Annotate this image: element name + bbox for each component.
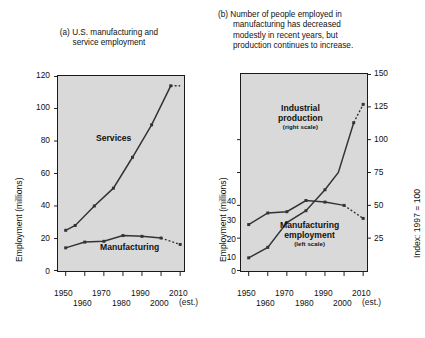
panel-b-y-axis-label-right: Index: 1997 = 100: [412, 189, 422, 258]
panel-a-series-services-markers: [64, 84, 172, 231]
panel-b-label-manufacturing-employment: Manufacturing employment (left scale): [280, 221, 339, 250]
panel-a-ytick-60: 60: [20, 168, 50, 178]
panel-b-xtick-1990: 1990: [314, 288, 333, 298]
panel-a-ytick-80: 80: [20, 135, 50, 145]
panel-a-title-line-2: service employment: [73, 38, 146, 47]
panel-b-ytick-right-25: 25: [374, 233, 383, 243]
panel-a-xtick-1970: 1970: [92, 288, 111, 298]
panel-b-label-industrial-production: Industrial production (right scale): [278, 104, 323, 133]
panel-b-ytick-right-100: 100: [374, 134, 388, 144]
panel-b-label-indprod-line1: Industrial: [281, 103, 320, 113]
panel-b-series-manuemp-dashed: [344, 205, 363, 218]
panel-b-ytick-left-30: 30: [212, 215, 236, 225]
panel-a-est-note: (est.): [179, 297, 198, 307]
panel-a-x-ticks: [66, 271, 180, 276]
panel-a-ytick-40: 40: [20, 200, 50, 210]
panel-b-ytick-right-150: 150: [374, 68, 388, 78]
panel-a-xtick-1950: 1950: [54, 288, 73, 298]
panel-a-ytick-120: 120: [20, 70, 50, 80]
panel-b-xtick-2000: 2000: [333, 298, 352, 308]
panel-a-title: (a) U.S. manufacturing and service emplo…: [24, 28, 194, 49]
panel-a-title-line-1: (a) U.S. manufacturing and: [60, 28, 158, 37]
panel-b-title-line-3: modestly in recent years, but: [218, 31, 418, 41]
panel-b-series-indprod-dashed: [354, 104, 363, 122]
panel-b-title-line-4: production continues to increase.: [218, 41, 418, 51]
panel-b-label-indprod-line2: production: [278, 113, 323, 123]
panel-a-xtick-1960: 1960: [73, 298, 92, 308]
panel-a-label-manufacturing: Manufacturing: [100, 243, 159, 253]
panel-a-y-axis-label: Employment (millions): [14, 177, 24, 262]
panel-a-y-ticks: [54, 76, 58, 270]
panel-b-title-line-1: (b) Number of people employed in: [218, 10, 418, 20]
panel-b-xtick-1980: 1980: [295, 298, 314, 308]
panel-a-ytick-20: 20: [20, 233, 50, 243]
panel-b-xtick-1950: 1950: [237, 288, 256, 298]
panel-a-series-manufacturing-dashed: [161, 238, 180, 244]
panel-b-label-indprod-scale: (right scale): [278, 123, 323, 133]
panel-a: (a) U.S. manufacturing and service emplo…: [0, 0, 213, 338]
panel-b-ytick-left-40: 40: [212, 196, 236, 206]
panel-a-xtick-1990: 1990: [131, 288, 150, 298]
panel-a-label-services: Services: [96, 134, 131, 144]
panel-b-label-manuemp-scale: (left scale): [280, 240, 339, 250]
panel-b-xtick-1970: 1970: [275, 288, 294, 298]
panel-a-series-services-line: [66, 86, 171, 231]
panel-b-ytick-right-125: 125: [374, 101, 388, 111]
panel-a-xtick-2000: 2000: [150, 298, 169, 308]
panel-b-label-manuemp-line2: employment: [284, 230, 335, 240]
panel-a-xtick-1980: 1980: [112, 298, 131, 308]
panel-b-ytick-right-75: 75: [374, 167, 383, 177]
panel-b-title-line-2: manufacturing has decreased: [218, 20, 418, 30]
panel-b-ytick-left-10: 10: [212, 252, 236, 262]
panel-a-ytick-0: 0: [20, 266, 50, 276]
panel-b-ytick-right-50: 50: [374, 200, 383, 210]
panel-a-ytick-100: 100: [20, 102, 50, 112]
panel-b-ytick-left-20: 20: [212, 234, 236, 244]
panel-b-ytick-left-0: 0: [212, 266, 236, 276]
panel-b-title: (b) Number of people employed in manufac…: [218, 10, 418, 52]
panel-b-est-note: (est.): [362, 297, 381, 307]
panel-b-label-manuemp-line1: Manufacturing: [280, 220, 339, 230]
panel-b-xtick-1960: 1960: [256, 298, 275, 308]
